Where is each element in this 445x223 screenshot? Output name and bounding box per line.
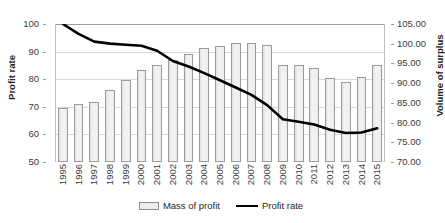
x-tick-slot: 2004 xyxy=(196,164,212,196)
bar xyxy=(247,43,257,162)
bar xyxy=(309,68,319,162)
bar-slot xyxy=(307,24,323,162)
bar-slot xyxy=(354,24,370,162)
x-tick-slot: 2010 xyxy=(291,164,307,196)
right-tick-label: 100.00 xyxy=(397,39,426,49)
bar xyxy=(74,104,84,162)
x-tick-slot: 2001 xyxy=(149,164,165,196)
left-tick-mark xyxy=(43,134,46,135)
legend-item[interactable]: Profit rate xyxy=(236,200,303,211)
legend-item[interactable]: Mass of profit xyxy=(139,200,220,211)
bar xyxy=(341,82,351,162)
bar-slot xyxy=(165,24,181,162)
bar-slot xyxy=(149,24,165,162)
bar xyxy=(262,45,272,162)
bar xyxy=(137,70,147,162)
legend-label: Profit rate xyxy=(262,200,303,211)
bar xyxy=(372,65,382,162)
bar xyxy=(121,80,131,162)
bar xyxy=(184,54,194,162)
left-tick-label: 70 xyxy=(28,102,39,112)
x-tick-label: 1997 xyxy=(90,164,100,185)
legend-bar-swatch-icon xyxy=(139,202,159,210)
x-tick-label: 2013 xyxy=(341,164,351,185)
bar-slot xyxy=(259,24,275,162)
bar xyxy=(168,60,178,163)
right-tick-mark xyxy=(391,162,394,163)
left-axis-tick-labels: 1009080706050 xyxy=(0,24,48,162)
x-tick-label: 2008 xyxy=(262,164,272,185)
right-tick-label: 105.00 xyxy=(397,19,426,29)
bar xyxy=(294,65,304,162)
x-tick-slot: 2006 xyxy=(228,164,244,196)
x-tick-slot: 2003 xyxy=(181,164,197,196)
bar-slot xyxy=(134,24,150,162)
x-tick-slot: 2009 xyxy=(275,164,291,196)
left-tick-label: 100 xyxy=(23,19,39,29)
right-tick-label: 80.00 xyxy=(397,118,421,128)
right-tick-label: 75.00 xyxy=(397,138,421,148)
right-tick-mark xyxy=(391,24,394,25)
x-tick-label: 2015 xyxy=(372,164,382,185)
bar xyxy=(357,77,367,162)
x-tick-slot: 1996 xyxy=(71,164,87,196)
x-tick-slot: 1995 xyxy=(55,164,71,196)
left-tick-mark xyxy=(43,52,46,53)
left-tick-label: 90 xyxy=(28,47,39,57)
right-tick-mark xyxy=(391,83,394,84)
x-tick-label: 2003 xyxy=(184,164,194,185)
x-tick-label: 2012 xyxy=(325,164,335,185)
right-tick-mark xyxy=(391,103,394,104)
bar-slot xyxy=(71,24,87,162)
x-tick-label: 2010 xyxy=(294,164,304,185)
x-tick-label: 2014 xyxy=(357,164,367,185)
x-tick-slot: 2005 xyxy=(212,164,228,196)
right-tick-label: 85.00 xyxy=(397,98,421,108)
bar-slot xyxy=(228,24,244,162)
right-axis-tick-labels: 105.00100.0095.0090.0085.0080.0075.0070.… xyxy=(390,24,436,162)
x-tick-slot: 2015 xyxy=(369,164,385,196)
plot-area xyxy=(55,24,385,162)
x-tick-label: 2005 xyxy=(215,164,225,185)
bar-slot xyxy=(55,24,71,162)
x-tick-slot: 2014 xyxy=(354,164,370,196)
bar-slot xyxy=(118,24,134,162)
legend-line-swatch-icon xyxy=(236,205,258,207)
bar xyxy=(278,65,288,162)
bar xyxy=(89,102,99,162)
x-tick-label: 2006 xyxy=(231,164,241,185)
right-tick-mark xyxy=(391,123,394,124)
left-tick-mark xyxy=(43,79,46,80)
right-tick-label: 90.00 xyxy=(397,78,421,88)
bar xyxy=(231,43,241,162)
x-tick-label: 2002 xyxy=(168,164,178,185)
x-tick-label: 1998 xyxy=(105,164,115,185)
x-tick-label: 2004 xyxy=(200,164,210,185)
x-tick-label: 1999 xyxy=(121,164,131,185)
x-tick-slot: 1998 xyxy=(102,164,118,196)
bar xyxy=(325,78,335,162)
bar-slot xyxy=(212,24,228,162)
x-tick-slot: 2012 xyxy=(322,164,338,196)
x-tick-slot: 2002 xyxy=(165,164,181,196)
x-tick-label: 2011 xyxy=(310,164,320,184)
bar xyxy=(152,65,162,162)
bar-slot xyxy=(369,24,385,162)
chart-legend: Mass of profitProfit rate xyxy=(0,200,442,211)
x-tick-slot: 2013 xyxy=(338,164,354,196)
right-tick-label: 70.00 xyxy=(397,157,421,167)
x-tick-slot: 2000 xyxy=(134,164,150,196)
x-tick-label: 1996 xyxy=(74,164,84,185)
left-tick-label: 60 xyxy=(28,130,39,140)
right-tick-mark xyxy=(391,142,394,143)
bar-slot xyxy=(322,24,338,162)
legend-label: Mass of profit xyxy=(163,200,220,211)
bar xyxy=(105,90,115,162)
bar-slot xyxy=(338,24,354,162)
x-tick-label: 1995 xyxy=(58,164,68,185)
right-tick-mark xyxy=(391,44,394,45)
x-tick-slot: 2007 xyxy=(244,164,260,196)
bar-series-mass-of-profit xyxy=(55,24,385,162)
x-tick-slot: 2008 xyxy=(259,164,275,196)
x-tick-label: 2001 xyxy=(152,164,162,185)
